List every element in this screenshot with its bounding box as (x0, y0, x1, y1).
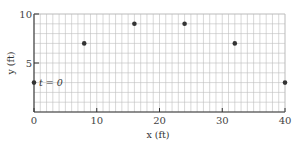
chart: 010203040510 t = 0 x (ft) y (ft) (0, 0, 300, 143)
data-point (132, 22, 137, 27)
x-tick-label: 20 (153, 115, 166, 126)
grid-lines (34, 14, 285, 112)
y-tick-label: 10 (19, 9, 32, 20)
x-axis-label: x (ft) (146, 129, 169, 140)
data-point (233, 41, 238, 46)
x-tick-label: 0 (31, 115, 37, 126)
data-point (283, 80, 288, 85)
x-tick-label: 30 (216, 115, 229, 126)
x-tick-label: 40 (279, 115, 292, 126)
data-point (182, 22, 187, 27)
tick-labels: 010203040510 (19, 9, 291, 127)
y-axis-label: y (ft) (5, 51, 16, 75)
x-tick-label: 10 (90, 115, 103, 126)
y-tick-label: 5 (26, 58, 32, 69)
data-point (82, 41, 87, 46)
annotation-t0: t = 0 (39, 77, 63, 88)
data-point (32, 80, 37, 85)
